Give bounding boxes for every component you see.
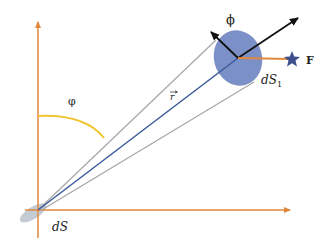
- diagram-canvas: φ ϕ F r dS1 dS: [0, 0, 328, 249]
- r-vector-label-group: r: [170, 91, 178, 102]
- ds-label: dS: [52, 220, 68, 234]
- phi-angle-label: φ: [68, 95, 76, 108]
- cone-edge-upper: [38, 40, 216, 210]
- r-vector-line: [38, 58, 238, 210]
- ds1-label: dS1: [261, 73, 282, 89]
- angle-arc: [38, 116, 104, 138]
- phi-vector-label: ϕ: [226, 12, 235, 27]
- force-line: [238, 58, 290, 59]
- star-icon: [284, 51, 300, 67]
- r-vector-label: r: [170, 92, 175, 102]
- force-label: F: [306, 54, 314, 67]
